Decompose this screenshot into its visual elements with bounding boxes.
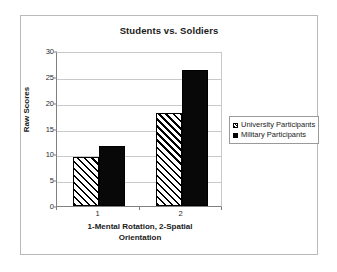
x-axis-title: 1-Mental Rotation, 2-Spatial Orientation xyxy=(40,222,240,244)
chart-container: Students vs. Soldiers Raw Scores 0510152… xyxy=(0,0,337,272)
y-tick-label: 10 xyxy=(34,152,54,160)
chart-legend: University Participants Military Partici… xyxy=(229,116,319,144)
legend-item-military: Military Participants xyxy=(232,130,315,140)
legend-item-university: University Participants xyxy=(232,120,315,130)
y-axis-ticks: 051015202530 xyxy=(34,52,54,207)
y-tick-label: 25 xyxy=(34,74,54,82)
x-tick-mark xyxy=(221,207,222,210)
solid-swatch-icon xyxy=(233,133,238,138)
x-axis-ticks: 12 xyxy=(56,207,222,221)
x-axis-title-line-2: Orientation xyxy=(40,233,240,244)
y-tick-label: 15 xyxy=(34,126,54,134)
x-axis-title-line-1: 1-Mental Rotation, 2-Spatial xyxy=(40,222,240,233)
plot-area xyxy=(56,52,222,207)
bar-military-group-1 xyxy=(99,146,125,206)
y-tick-label: 5 xyxy=(34,177,54,185)
bar-university-group-2 xyxy=(156,113,182,206)
x-tick-label: 1 xyxy=(95,210,99,218)
bar-military-group-2 xyxy=(182,70,208,206)
y-axis-title: Raw Scores xyxy=(22,74,31,146)
hatched-swatch-icon xyxy=(233,123,238,128)
chart-title: Students vs. Soldiers xyxy=(20,25,318,36)
x-tick-mark xyxy=(139,207,140,210)
bar-university-group-1 xyxy=(73,157,99,206)
legend-item-label: Military Participants xyxy=(241,131,306,139)
x-tick-label: 2 xyxy=(178,210,182,218)
y-tick-label: 0 xyxy=(34,203,54,211)
y-tick-label: 30 xyxy=(34,48,54,56)
legend-item-label: University Participants xyxy=(241,121,315,129)
x-tick-mark xyxy=(56,207,57,210)
y-tick-label: 20 xyxy=(34,100,54,108)
